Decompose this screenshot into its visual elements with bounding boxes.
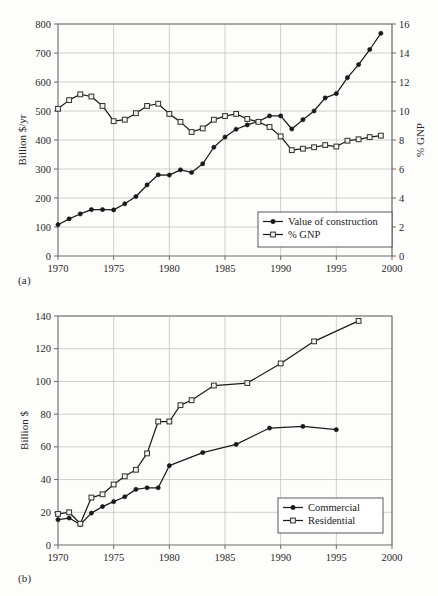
x-tick-label: 2000 (382, 263, 403, 274)
data-point-marker (267, 125, 272, 130)
data-point-marker (367, 135, 372, 140)
data-point-marker (56, 518, 60, 522)
data-point-marker (323, 143, 328, 148)
data-point-marker (178, 119, 183, 124)
data-point-marker (67, 98, 72, 103)
y2-tick-label: 10 (399, 106, 410, 117)
data-point-marker (56, 512, 61, 517)
y2-tick-label: 4 (399, 193, 405, 204)
legend-marker-filled-circle-icon (271, 219, 275, 223)
data-point-marker (156, 173, 160, 177)
data-point-marker (178, 168, 182, 172)
y-tick-label: 500 (35, 106, 51, 117)
legend-label: Commercial (308, 502, 360, 513)
chart-b-svg: 0204060801001201401970197519801985199019… (0, 300, 438, 596)
data-point-marker (334, 92, 338, 96)
data-point-marker (78, 521, 83, 526)
y-axis-right: 0246810121416 (392, 19, 410, 262)
data-point-marker (356, 319, 361, 324)
x-tick-label: 2000 (382, 552, 403, 563)
data-point-marker (245, 381, 250, 386)
data-point-marker (290, 127, 294, 131)
chart-a-container: 0100200300400500600700800024681012141619… (0, 0, 438, 300)
data-point-marker (378, 133, 383, 138)
series-line (58, 33, 381, 224)
data-point-marker (368, 47, 372, 51)
data-point-marker (67, 510, 72, 515)
y2-tick-label: 16 (399, 19, 410, 30)
data-point-marker (234, 112, 239, 117)
legend[interactable]: Value of construction% GNP (258, 212, 392, 247)
x-tick-label: 1980 (159, 263, 180, 274)
series-1 (56, 31, 383, 227)
data-point-marker (122, 117, 127, 122)
y2-tick-label: 14 (399, 48, 410, 59)
data-point-marker (345, 76, 349, 80)
figure-page: 0100200300400500600700800024681012141619… (0, 0, 438, 596)
data-point-marker (334, 144, 339, 149)
data-point-marker (312, 145, 317, 150)
data-point-marker (78, 212, 82, 216)
panel-label-a: (a) (18, 274, 31, 286)
data-point-marker (123, 202, 127, 206)
data-point-marker (112, 500, 116, 504)
data-point-marker (156, 419, 161, 424)
data-point-marker (145, 486, 149, 490)
y-tick-label: 120 (35, 343, 51, 354)
data-point-marker (56, 106, 61, 111)
y-tick-label: 600 (35, 77, 51, 88)
data-point-marker (89, 94, 94, 99)
y-tick-label: 800 (35, 19, 51, 30)
y-tick-label: 140 (35, 311, 51, 322)
data-point-marker (211, 117, 216, 122)
data-point-marker (123, 495, 127, 499)
data-point-marker (301, 424, 305, 428)
legend[interactable]: CommercialResidential (278, 498, 383, 533)
data-point-marker (234, 127, 238, 131)
x-axis: 1970197519801985199019952000 (48, 256, 403, 274)
data-point-marker (134, 487, 138, 491)
data-point-marker (278, 361, 283, 366)
data-point-marker (256, 119, 261, 124)
y-tick-label: 200 (35, 193, 51, 204)
data-point-marker (178, 403, 183, 408)
y-axis-title: Billion $ (18, 411, 30, 450)
x-tick-label: 1970 (48, 263, 69, 274)
data-point-marker (234, 442, 238, 446)
data-point-marker (100, 208, 104, 212)
y-tick-label: 0 (46, 251, 51, 262)
y-tick-label: 300 (35, 164, 51, 175)
data-point-marker (156, 486, 160, 490)
y2-tick-label: 6 (399, 164, 404, 175)
data-point-marker (134, 111, 139, 116)
data-point-marker (111, 482, 116, 487)
x-tick-label: 1990 (270, 263, 291, 274)
chart-a-svg: 0100200300400500600700800024681012141619… (0, 0, 438, 300)
y-tick-label: 0 (46, 540, 51, 551)
data-point-marker (289, 148, 294, 153)
data-point-marker (67, 516, 71, 520)
data-point-marker (267, 114, 271, 118)
x-axis: 1970197519801985199019952000 (48, 545, 403, 563)
data-point-marker (201, 450, 205, 454)
y-axis-title: Billion $/yr (16, 114, 28, 165)
data-point-marker (356, 137, 361, 142)
series-2 (56, 319, 361, 527)
data-point-marker (89, 208, 93, 212)
y2-tick-label: 2 (399, 222, 404, 233)
data-point-marker (145, 104, 150, 109)
x-tick-label: 1975 (103, 552, 124, 563)
data-point-marker (245, 123, 249, 127)
y-tick-label: 80 (41, 409, 52, 420)
y-tick-label: 100 (35, 222, 51, 233)
y2-tick-label: 8 (399, 135, 404, 146)
y-axis-left: 0100200300400500600700800 (35, 19, 58, 262)
data-point-marker (334, 428, 338, 432)
data-point-marker (78, 92, 83, 97)
data-point-marker (211, 383, 216, 388)
data-point-marker (122, 474, 127, 479)
data-point-marker (212, 145, 216, 149)
y2-tick-label: 12 (399, 77, 410, 88)
y-tick-label: 100 (35, 376, 51, 387)
data-point-marker (301, 118, 305, 122)
